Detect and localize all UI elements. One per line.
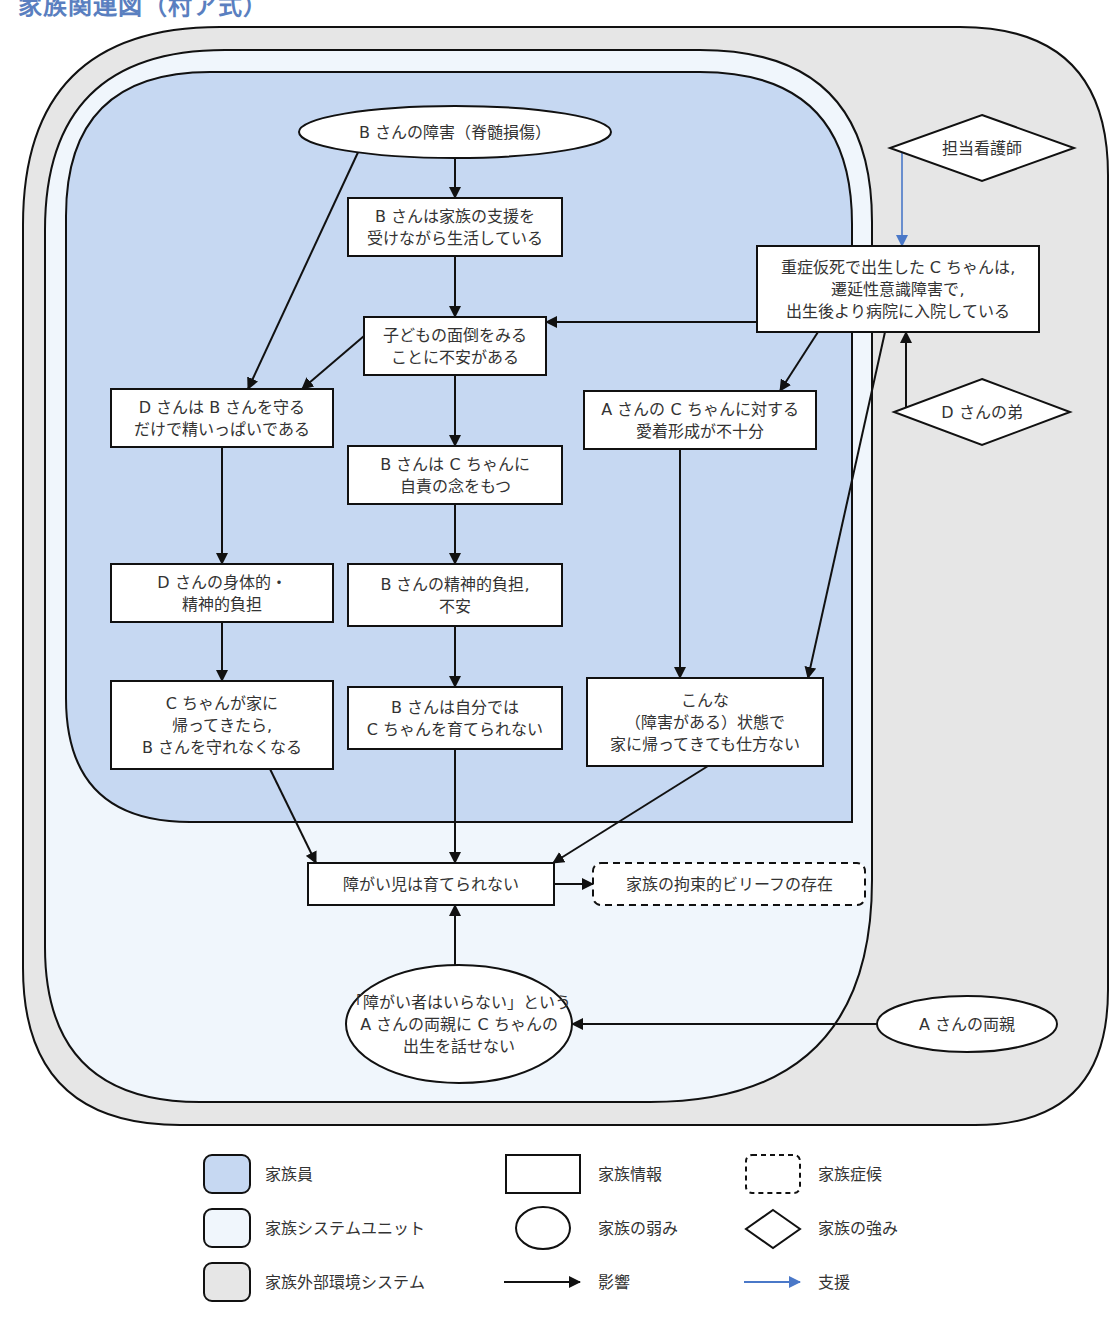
legend-label-family-system-unit: 家族システムユニット	[265, 1219, 425, 1238]
node-label-line: 出生を話せない	[403, 1037, 515, 1056]
legend-swatch-external-environment	[204, 1263, 250, 1301]
node-shape-rect	[348, 687, 562, 749]
node-c-home-d: C ちゃんが家に帰ってきたら,B さんを守れなくなる	[111, 681, 333, 769]
legend-swatch-family-system-unit	[204, 1209, 250, 1247]
legend-diamond-icon	[746, 1210, 800, 1248]
node-cannot-raise-disabled: 障がい児は育てられない	[308, 863, 554, 905]
node-childcare-anxiety: 子どもの面倒をみることに不安がある	[364, 317, 546, 375]
node-label-line: B さんは自分では	[391, 698, 519, 717]
node-label-line: D さんの弟	[941, 403, 1022, 422]
node-b-guilt: B さんは C ちゃんに自責の念をもつ	[348, 446, 562, 504]
node-d-burden: D さんの身体的・精神的負担	[111, 564, 333, 622]
node-label-line: B さんの精神的負担,	[380, 575, 529, 594]
node-label-line: だけで精いっぱいである	[134, 420, 310, 439]
node-shape-rect	[348, 564, 562, 626]
node-label-line: A さんの C ちゃんに対する	[601, 400, 798, 419]
node-label-line: こんな	[681, 691, 729, 710]
node-a-parents: A さんの両親	[877, 996, 1057, 1052]
node-label-line: 精神的負担	[182, 595, 262, 614]
node-label-line: B さんは C ちゃんに	[380, 455, 529, 474]
legend-ellipse-icon	[516, 1207, 570, 1249]
family-relationship-diagram: B さんの障害（脊髄損傷）B さんは家族の支援を受けながら生活している子どもの面…	[0, 0, 1115, 1336]
node-label-line: 自責の念をもつ	[400, 477, 511, 496]
node-label-line: 子どもの面倒をみる	[383, 326, 527, 345]
node-d-protects-b: D さんは B さんを守るだけで精いっぱいである	[111, 389, 333, 447]
node-label-line: （障害がある）状態で	[625, 713, 785, 732]
node-label-line: 不安	[439, 597, 471, 616]
node-label-line: D さんは B さんを守る	[139, 398, 306, 417]
legend-label-family-member: 家族員	[265, 1165, 313, 1184]
node-cannot-help: こんな（障害がある）状態で家に帰ってきても仕方ない	[587, 678, 823, 766]
legend-label-influence: 影響	[598, 1273, 630, 1292]
node-label-line: D さんの身体的・	[157, 573, 286, 592]
node-label-line: 重症仮死で出生した C ちゃんは,	[781, 258, 1015, 277]
legend-label-support: 支援	[818, 1273, 850, 1292]
node-label-line: 受けながら生活している	[367, 229, 543, 248]
node-label-line: 家に帰ってきても仕方ない	[610, 735, 800, 754]
node-label-line: ことに不安がある	[391, 348, 519, 367]
node-a-attachment: A さんの C ちゃんに対する愛着形成が不十分	[584, 391, 816, 449]
node-label-line: C ちゃんが家に	[166, 694, 278, 713]
legend-label-family-symptom: 家族症候	[818, 1165, 882, 1184]
node-label-line: 「障がい者はいらない」という	[347, 993, 571, 1012]
legend-dashed-rect-icon	[746, 1155, 800, 1193]
node-b-support: B さんは家族の支援を受けながら生活している	[348, 198, 562, 256]
legend-swatch-family-member	[204, 1155, 250, 1193]
legend-label-family-weakness: 家族の弱み	[598, 1219, 678, 1238]
legend-label-family-strength: 家族の強み	[818, 1219, 898, 1238]
legend-label-external-environment: 家族外部環境システム	[265, 1273, 425, 1292]
legend: 家族員 家族システムユニット 家族外部環境システム 家族情報 家族の弱み 影響 …	[204, 1155, 898, 1301]
node-label-line: 帰ってきたら,	[172, 716, 272, 735]
node-c-hospitalized: 重症仮死で出生した C ちゃんは,遷延性意識障害で,出生後より病院に入院している	[757, 246, 1039, 332]
node-label-line: B さんの障害（脊髄損傷）	[359, 123, 551, 142]
node-label-line: 家族の拘束的ビリーフの存在	[626, 875, 833, 894]
node-b-cannot-raise: B さんは自分ではC ちゃんを育てられない	[348, 687, 562, 749]
node-label-line: A さんの両親に C ちゃんの	[360, 1015, 557, 1034]
node-label-line: 遷延性意識障害で,	[831, 280, 964, 299]
legend-rect-icon	[506, 1155, 580, 1193]
node-label-line: 出生後より病院に入院している	[786, 302, 1010, 321]
node-label-line: B さんは家族の支援を	[375, 207, 535, 226]
legend-label-family-info: 家族情報	[598, 1165, 662, 1184]
node-label-line: A さんの両親	[919, 1015, 1015, 1034]
node-label-line: B さんを守れなくなる	[142, 738, 302, 757]
node-cannot-tell-parents: 「障がい者はいらない」というA さんの両親に C ちゃんの出生を話せない	[346, 965, 572, 1083]
node-label-line: 担当看護師	[942, 139, 1022, 158]
node-label-line: 愛着形成が不十分	[636, 422, 764, 441]
node-b-disability: B さんの障害（脊髄損傷）	[299, 106, 611, 158]
node-label-line: 障がい児は育てられない	[343, 875, 519, 894]
node-b-burden: B さんの精神的負担,不安	[348, 564, 562, 626]
node-label-line: C ちゃんを育てられない	[367, 720, 543, 739]
node-constraining-belief: 家族の拘束的ビリーフの存在	[593, 863, 865, 905]
